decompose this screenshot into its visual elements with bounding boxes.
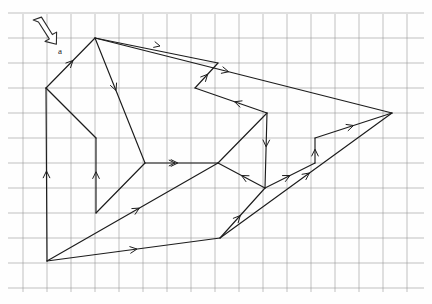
seg-top-to-right (95, 38, 392, 113)
seg-top-to-mid-hub (95, 38, 145, 163)
seg-bottom-left-to-bmid (47, 238, 220, 261)
seg-bottom-left-to-center (47, 163, 218, 261)
grid-group (8, 13, 424, 292)
vector-label-a: a (58, 46, 62, 56)
diagram-canvas: a (0, 0, 432, 304)
seg-notch-top-to-top (95, 38, 218, 63)
seg-notch-in-to-notch-up (195, 88, 267, 113)
arrow-cursor-shape[interactable] (33, 16, 58, 47)
vector-path-diagram: a (0, 0, 432, 304)
path-segments-group (46, 38, 392, 261)
arrowhead-tick-top-right-path (154, 42, 160, 48)
seg-notch-in-to-step (265, 113, 267, 188)
direction-arrows-group (43, 42, 353, 253)
arrow-cursor-icon[interactable] (33, 16, 58, 47)
seg-notch-up-to-notch-top (195, 63, 218, 88)
